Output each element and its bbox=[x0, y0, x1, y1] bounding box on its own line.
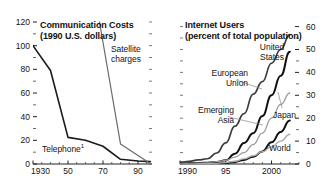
y-tick-label: 50 bbox=[306, 44, 316, 54]
series-label-japan: Japan bbox=[273, 110, 296, 120]
y-tick-label: 30 bbox=[306, 90, 316, 100]
series-label-european-union: EuropeanUnion bbox=[192, 68, 248, 88]
y-tick-label: 0 bbox=[306, 159, 311, 169]
x-tick-label: 90 bbox=[133, 166, 143, 176]
y-tick-label: 60 bbox=[21, 88, 31, 98]
series-label-emerging-asia: EmergingAsia bbox=[180, 105, 234, 125]
left-chart-title: Communication Costs bbox=[40, 20, 134, 31]
panel-communication-costs: 1930507090020406080100120 Communication … bbox=[0, 0, 166, 193]
telephone-label-text: Telephone bbox=[42, 144, 81, 154]
y-tick-label: 0 bbox=[25, 159, 30, 169]
y-tick-label: 80 bbox=[21, 64, 31, 74]
x-tick-label: 95 bbox=[221, 166, 231, 176]
right-chart-title: Internet Users bbox=[185, 20, 244, 31]
y-tick-label: 120 bbox=[16, 17, 30, 27]
x-tick-label: 70 bbox=[98, 166, 108, 176]
y-tick-label: 20 bbox=[306, 113, 316, 123]
series-label-telephone: Telephone1 bbox=[42, 141, 84, 154]
y-tick-label: 20 bbox=[21, 135, 31, 145]
panel-internet-users: 19909520000102030405060 Internet Users (… bbox=[166, 0, 332, 193]
y-tick-label: 60 bbox=[306, 22, 316, 32]
y-tick-label: 40 bbox=[306, 67, 316, 77]
telephone-footnote-marker: 1 bbox=[81, 143, 84, 149]
series-label-world: World bbox=[269, 143, 291, 153]
x-tick-label: 2000 bbox=[262, 166, 281, 176]
y-tick-label: 100 bbox=[16, 41, 30, 51]
x-tick-label: 1930 bbox=[31, 166, 50, 176]
x-tick-label: 1990 bbox=[178, 166, 197, 176]
series-label-united-states: UnitedStates bbox=[250, 42, 294, 62]
y-tick-label: 10 bbox=[306, 136, 316, 146]
x-tick-label: 50 bbox=[63, 166, 73, 176]
series-label-satellite-charges: Satellitecharges bbox=[111, 44, 141, 64]
right-chart-subtitle: (percent of total population) bbox=[185, 31, 302, 42]
left-chart-subtitle: (1990 U.S. dollars) bbox=[40, 31, 116, 42]
y-tick-label: 40 bbox=[21, 112, 31, 122]
chart-figure: 1930507090020406080100120 Communication … bbox=[0, 0, 332, 193]
